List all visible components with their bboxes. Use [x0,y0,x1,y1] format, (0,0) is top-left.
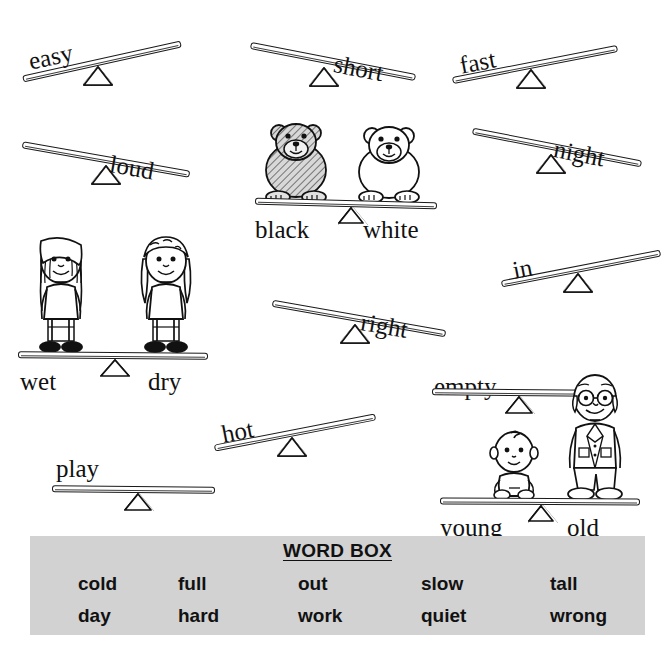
light-bear-figure [353,121,425,206]
seesaw-label-in: in [510,254,534,285]
seesaw-play: play [52,452,232,508]
seesaw-loud: loud [18,130,198,192]
seesaw-fast: fast [448,28,623,90]
seesaw-label-play: play [56,455,99,483]
word-box: WORD BOX cold full out slow tall day har… [30,536,645,635]
word-box-word[interactable]: tall [522,573,645,595]
example-young-old: young old [440,372,640,522]
word-box-word[interactable]: full [153,573,276,595]
word-box-word[interactable]: work [276,605,399,627]
seesaw-right: right [268,292,453,354]
example-label-black: black [255,216,309,244]
example-wet-dry: wet dry [18,235,218,360]
seesaw-night: night [468,120,653,182]
old-man-figure [560,372,630,504]
fulcrum-icon [100,359,130,377]
word-box-title: WORD BOX [30,540,645,562]
fulcrum-icon [528,505,558,523]
word-box-word[interactable]: hard [153,605,276,627]
example-label-white: white [363,216,419,244]
example-label-wet: wet [20,368,56,396]
wet-girl-figure [28,235,94,359]
seesaw-in: in [497,232,665,294]
example-label-dry: dry [148,368,181,396]
seesaw-easy: easy [18,26,188,88]
fulcrum-icon [83,66,113,84]
word-box-row: cold full out slow tall [30,573,645,595]
example-black-white: black white [255,118,455,226]
word-box-word[interactable]: out [276,573,399,595]
fulcrum-icon [277,437,307,455]
dark-bear-figure [260,118,332,206]
word-box-word[interactable]: day [30,605,153,627]
word-box-word[interactable]: quiet [399,605,522,627]
fulcrum-icon [563,273,593,291]
word-box-row: day hard work quiet wrong [30,605,645,627]
seesaw-short: short [246,26,421,88]
word-box-word[interactable]: cold [30,573,153,595]
worksheet-page: easy short fast loud [0,0,665,646]
word-box-word[interactable]: slow [399,573,522,595]
fulcrum-icon [124,493,154,511]
word-box-word[interactable]: wrong [522,605,645,627]
fulcrum-icon [516,69,546,87]
seesaw-label-hot: hot [219,415,256,449]
seesaw-hot: hot [210,400,380,462]
baby-figure [483,430,545,502]
dry-girl-figure [133,235,199,359]
